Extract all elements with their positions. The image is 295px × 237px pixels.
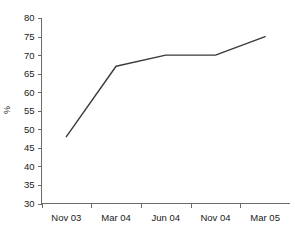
chart-canvas: 3035404550556065707580 Nov 03Mar 04Jun 0… <box>0 0 295 237</box>
y-tick-label: 45 <box>24 142 35 153</box>
y-tick-label: 50 <box>24 124 35 135</box>
y-tick-label: 60 <box>24 87 35 98</box>
x-tick-label: Mar 04 <box>101 212 131 223</box>
x-tick-label: Jun 04 <box>151 212 180 223</box>
y-tick-label: 35 <box>24 179 35 190</box>
y-tick-label: 75 <box>24 31 35 42</box>
x-tick-label: Nov 04 <box>200 212 230 223</box>
y-axis-title-group: % <box>2 106 12 114</box>
y-tick-label: 30 <box>24 198 35 209</box>
y-tick-label: 55 <box>24 105 35 116</box>
y-tick-label: 40 <box>24 161 35 172</box>
line-chart: 3035404550556065707580 Nov 03Mar 04Jun 0… <box>0 0 295 237</box>
y-axis-title: % <box>2 106 12 114</box>
chart-background <box>0 0 295 237</box>
y-tick-label: 65 <box>24 68 35 79</box>
x-tick-label: Nov 03 <box>51 212 81 223</box>
y-axis-tick-labels: 3035404550556065707580 <box>24 12 35 209</box>
y-tick-label: 70 <box>24 50 35 61</box>
x-tick-label: Mar 05 <box>250 212 280 223</box>
y-tick-label: 80 <box>24 12 35 23</box>
